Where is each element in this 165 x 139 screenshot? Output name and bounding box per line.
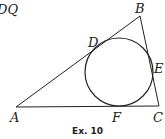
label-e: E — [154, 62, 164, 75]
triangle-abc — [16, 16, 159, 107]
label-b: B — [135, 2, 145, 15]
label-f: F — [112, 111, 121, 124]
label-a: A — [10, 111, 19, 124]
label-d: D — [88, 36, 98, 49]
label-c: C — [153, 111, 163, 124]
header-fragment: DQ — [0, 3, 18, 16]
diagram: DQ B D E A F C Ex. 10 — [0, 0, 165, 139]
triangle-incircle-figure — [0, 0, 165, 139]
caption: Ex. 10 — [72, 127, 103, 136]
